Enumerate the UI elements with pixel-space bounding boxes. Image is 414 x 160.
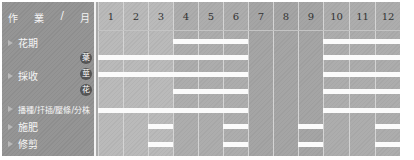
task-harvest: 採收: [8, 68, 38, 83]
harvest-flower-bar: [323, 89, 400, 94]
propagation-bar: [98, 108, 248, 113]
flower-badge: 花: [80, 84, 92, 96]
harvest-stem-bar: [323, 72, 400, 77]
fertilize-bar: [375, 124, 400, 129]
header-char: 月: [80, 10, 90, 24]
month-column-1: 1: [98, 2, 123, 156]
month-column-9: 9: [298, 2, 323, 156]
triangle-bullet-icon: [8, 40, 13, 46]
month-column-10: 10: [323, 2, 349, 156]
harvest-flower-bar: [173, 89, 248, 94]
month-column-12: 12: [375, 2, 400, 156]
task-prune: 修剪: [8, 136, 38, 151]
harvest-stem-bar: [98, 72, 248, 77]
month-column-8: 8: [273, 2, 298, 156]
prune-bar: [148, 142, 173, 147]
propagation-bar: [323, 108, 400, 113]
triangle-bullet-icon: [8, 124, 13, 130]
harvest-leaf-bar: [98, 55, 248, 60]
header-char: 業: [34, 10, 44, 24]
flowering-bar: [173, 39, 248, 44]
fertilize-bar: [223, 124, 248, 129]
month-column-11: 11: [349, 2, 375, 156]
task-propagation: 播種/扦插/壓條/分株: [8, 104, 90, 115]
month-column-5: 5: [198, 2, 223, 156]
month-column-7: 7: [248, 2, 273, 156]
month-grid: 1 2 3 4 5 6 7 8 9 10 11 12: [98, 2, 400, 156]
month-column-4: 4: [173, 2, 198, 156]
fertilize-bar: [148, 124, 173, 129]
harvest-leaf-bar: [323, 55, 400, 60]
task-column: 作 業 / 月 花期 葉 採收 莖 花 播種/扦插/壓條/分株 施肥 修剪: [2, 2, 96, 156]
leaf-badge: 葉: [80, 52, 92, 64]
task-fertilize: 施肥: [8, 119, 38, 134]
task-month-header: 作 業 / 月: [8, 10, 90, 24]
stem-badge: 莖: [80, 68, 92, 80]
prune-bar: [375, 142, 400, 147]
triangle-bullet-icon: [8, 106, 13, 112]
header-char: 作: [8, 10, 18, 24]
month-column-3: 3: [148, 2, 173, 156]
prune-bar: [223, 142, 248, 147]
triangle-bullet-icon: [8, 141, 13, 147]
crop-calendar-table: 作 業 / 月 花期 葉 採收 莖 花 播種/扦插/壓條/分株 施肥 修剪 1 …: [2, 2, 400, 156]
task-flowering: 花期: [8, 35, 38, 50]
fertilize-bar: [298, 124, 323, 129]
header-divider: [98, 30, 400, 31]
triangle-bullet-icon: [8, 73, 13, 79]
flowering-bar: [323, 39, 400, 44]
month-column-2: 2: [123, 2, 148, 156]
header-char: /: [60, 10, 63, 24]
prune-bar: [298, 142, 323, 147]
month-column-6: 6: [223, 2, 248, 156]
